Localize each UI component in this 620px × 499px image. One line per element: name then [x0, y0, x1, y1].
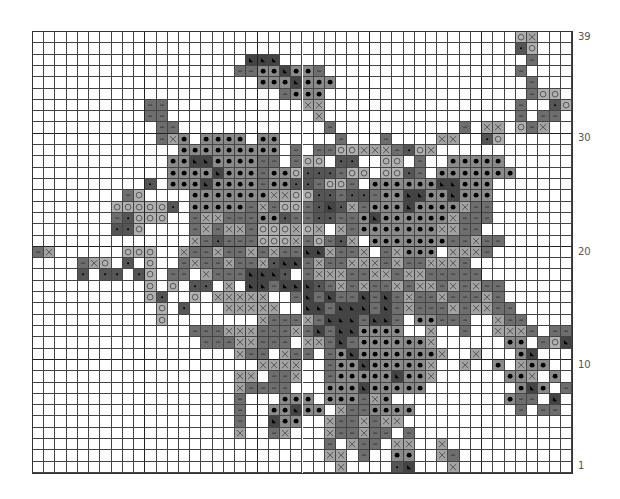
empty-cell: [482, 224, 493, 235]
dash-cell: [235, 258, 246, 269]
large-dot-cell: [246, 168, 257, 179]
large-dot-cell: [381, 236, 392, 247]
dash-cell: [370, 416, 381, 427]
empty-cell: [100, 450, 111, 461]
small-dot-cell: [303, 168, 314, 179]
large-dot-cell: [482, 190, 493, 201]
empty-cell: [213, 394, 224, 405]
ring-cell: [258, 224, 269, 235]
dash-cell: [359, 450, 370, 461]
dash-cell: [460, 315, 471, 326]
triangle-cell: [303, 281, 314, 292]
empty-cell: [168, 32, 179, 43]
large-dot-cell: [336, 383, 347, 394]
empty-cell: [538, 224, 549, 235]
large-dot-cell: [415, 213, 426, 224]
large-dot-cell: [392, 383, 403, 394]
empty-cell: [291, 428, 302, 439]
empty-cell: [33, 281, 44, 292]
cross-cell: [392, 439, 403, 450]
dash-cell: [482, 236, 493, 247]
dash-cell: [359, 202, 370, 213]
large-dot-cell: [325, 77, 336, 88]
cross-cell: [190, 236, 201, 247]
empty-cell: [100, 66, 111, 77]
empty-cell: [67, 134, 78, 145]
cross-cell: [426, 258, 437, 269]
empty-cell: [89, 337, 100, 348]
triangle-cell: [336, 303, 347, 314]
empty-cell: [55, 66, 66, 77]
empty-cell: [505, 66, 516, 77]
empty-cell: [190, 416, 201, 427]
empty-cell: [561, 179, 572, 190]
empty-cell: [168, 303, 179, 314]
large-dot-cell: [370, 224, 381, 235]
empty-cell: [482, 450, 493, 461]
cross-cell: [213, 292, 224, 303]
empty-cell: [201, 439, 212, 450]
small-dot-cell: [314, 168, 325, 179]
empty-cell: [538, 394, 549, 405]
dash-cell: [505, 315, 516, 326]
empty-cell: [145, 122, 156, 133]
dash-cell: [460, 258, 471, 269]
empty-cell: [112, 360, 123, 371]
empty-cell: [415, 100, 426, 111]
empty-cell: [157, 439, 168, 450]
dash-cell: [213, 337, 224, 348]
empty-cell: [33, 156, 44, 167]
empty-cell: [314, 122, 325, 133]
empty-cell: [123, 405, 134, 416]
dash-cell: [437, 269, 448, 280]
empty-cell: [190, 303, 201, 314]
small-dot-cell: [392, 462, 403, 473]
dash-cell: [516, 315, 527, 326]
empty-cell: [460, 462, 471, 473]
empty-cell: [67, 66, 78, 77]
empty-cell: [157, 371, 168, 382]
empty-cell: [550, 281, 561, 292]
small-dot-cell: [325, 168, 336, 179]
empty-cell: [347, 43, 358, 54]
empty-cell: [550, 292, 561, 303]
empty-cell: [516, 190, 527, 201]
large-dot-cell: [201, 145, 212, 156]
dash-cell: [224, 247, 235, 258]
dash-cell: [415, 292, 426, 303]
large-dot-cell: [359, 349, 370, 360]
empty-cell: [325, 462, 336, 473]
dash-cell: [550, 326, 561, 337]
cross-cell: [471, 281, 482, 292]
empty-cell: [426, 111, 437, 122]
small-dot-cell: [359, 190, 370, 201]
empty-cell: [505, 247, 516, 258]
large-dot-cell: [392, 202, 403, 213]
ring-cell: [100, 258, 111, 269]
empty-cell: [471, 43, 482, 54]
empty-cell: [550, 462, 561, 473]
empty-cell: [67, 213, 78, 224]
empty-cell: [33, 202, 44, 213]
empty-cell: [448, 32, 459, 43]
empty-cell: [269, 32, 280, 43]
empty-cell: [460, 77, 471, 88]
empty-cell: [404, 156, 415, 167]
empty-cell: [190, 428, 201, 439]
empty-cell: [561, 156, 572, 167]
dash-cell: [516, 100, 527, 111]
empty-cell: [67, 269, 78, 280]
empty-cell: [44, 462, 55, 473]
empty-cell: [561, 360, 572, 371]
large-dot-cell: [437, 236, 448, 247]
empty-cell: [303, 134, 314, 145]
empty-cell: [269, 111, 280, 122]
dash-cell: [179, 258, 190, 269]
empty-cell: [460, 405, 471, 416]
triangle-cell: [201, 156, 212, 167]
empty-cell: [359, 43, 370, 54]
empty-cell: [78, 156, 89, 167]
dash-cell: [347, 405, 358, 416]
dash-cell: [493, 303, 504, 314]
empty-cell: [538, 315, 549, 326]
